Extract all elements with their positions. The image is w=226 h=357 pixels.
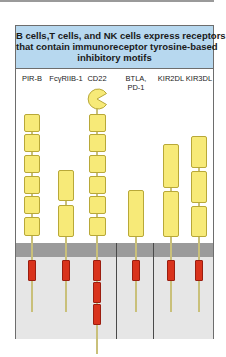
ig-domain — [163, 144, 179, 188]
ig-domain — [191, 136, 207, 168]
ig-domain — [128, 190, 144, 237]
divider-t-nk — [153, 243, 154, 339]
itim-motif — [93, 282, 101, 303]
ig-domain — [163, 191, 179, 237]
ig-domain — [191, 206, 207, 237]
itim-motif — [28, 260, 36, 281]
itim-motif — [167, 260, 175, 281]
ig-domain — [89, 134, 106, 152]
label-cd22: CD22 — [87, 75, 106, 84]
itim-motif — [93, 304, 101, 325]
label-btla: BTLA, PD-1 — [126, 75, 147, 92]
ig-domain — [89, 176, 106, 194]
ig-domain — [89, 114, 106, 132]
ig-domain — [58, 205, 74, 237]
label-pd-1-line2: PD-1 — [127, 83, 144, 92]
top-rule — [0, 0, 214, 2]
cytoplasm — [16, 257, 213, 339]
ig-domain — [24, 196, 40, 214]
label-fcgriib-1: FcγRIIB-1 — [49, 75, 82, 84]
ig-domain — [58, 170, 74, 201]
itim-motif — [195, 260, 203, 281]
title-line-3: inhibitory motifs — [16, 52, 213, 63]
sialic-acid-binding-domain-icon — [86, 88, 108, 110]
cell-membrane — [16, 243, 213, 257]
itim-motif — [62, 260, 70, 281]
figure-panel: B cells,T cells, and NK cells express re… — [15, 25, 214, 339]
title-line-1: B cells,T cells, and NK cells express re… — [16, 30, 213, 41]
itim-motif — [132, 260, 140, 281]
label-kir3dl: KIR3DL — [186, 75, 212, 84]
ig-domain — [24, 114, 40, 132]
ig-domain — [24, 134, 40, 152]
ig-domain — [191, 171, 207, 203]
label-kir2dl: KIR2DL — [158, 75, 184, 84]
divider-b-t — [116, 243, 117, 339]
ig-domain — [89, 196, 106, 214]
ig-domain — [89, 155, 106, 173]
ig-domain — [89, 217, 106, 236]
itim-motif — [93, 260, 101, 281]
label-pir-b: PIR-B — [22, 75, 42, 84]
ig-domain — [24, 217, 40, 236]
ig-domain — [24, 155, 40, 173]
title-line-2: that contain immunoreceptor tyrosine-bas… — [16, 41, 213, 52]
figure-title: B cells,T cells, and NK cells express re… — [16, 26, 213, 69]
ig-domain — [24, 176, 40, 194]
